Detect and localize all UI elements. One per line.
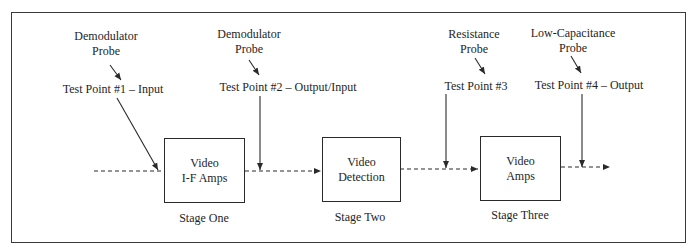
probe-2-label: DemodulatorProbe — [217, 27, 280, 57]
stage-two-box: VideoDetection — [322, 137, 401, 202]
probe-4-label: Low-CapacitanceProbe — [531, 26, 616, 56]
test-point-3-label: Test Point #3 — [444, 79, 507, 94]
stage-three-caption: Stage Three — [491, 208, 548, 223]
stage-one-box: VideoI-F Amps — [164, 138, 245, 203]
probe-1-label: DemodulatorProbe — [74, 29, 137, 59]
stage-one-caption: Stage One — [179, 211, 229, 226]
stage-three-box: VideoAmps — [480, 136, 561, 201]
probe-3-label: ResistanceProbe — [448, 27, 499, 57]
stage-two-caption: Stage Two — [335, 210, 386, 225]
test-point-1-label: Test Point #1 – Input — [63, 82, 164, 97]
test-point-2-label: Test Point #2 – Output/Input — [219, 80, 356, 95]
test-point-4-label: Test Point #4 – Output — [535, 78, 644, 93]
